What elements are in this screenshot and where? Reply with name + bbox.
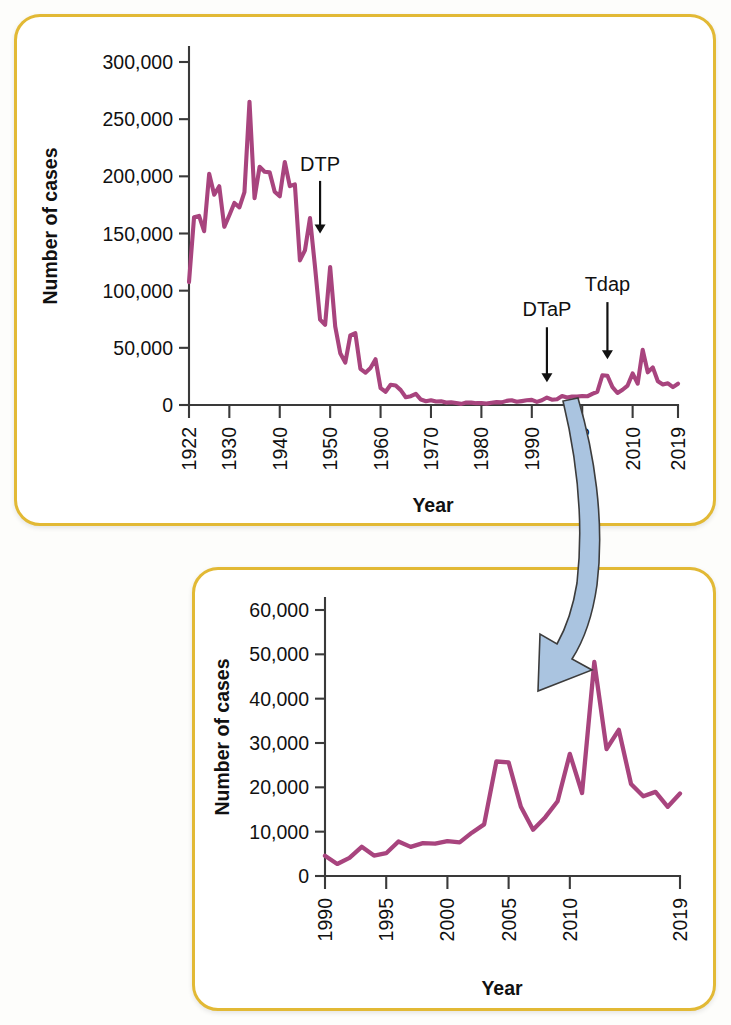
x-tick-label: 1930: [218, 427, 240, 471]
top-y-tick-labels: 050,000100,000150,000200,000250,000300,0…: [103, 51, 174, 416]
x-tick-label: 1995: [375, 898, 397, 942]
x-tick-label: 1990: [521, 427, 543, 471]
bottom-y-tick-group: [315, 610, 325, 876]
y-tick-label: 250,000: [103, 108, 174, 130]
pertussis-cases-line: [189, 102, 678, 404]
y-tick-label: 10,000: [249, 821, 309, 843]
annotation-arrow-head: [541, 373, 552, 382]
x-tick-label: 1940: [269, 427, 291, 471]
x-tick-label: 1990: [314, 898, 336, 942]
x-tick-label: 2005: [498, 898, 520, 942]
bottom-y-axis-title: Number of cases: [211, 658, 233, 815]
top-x-tick-group: [189, 405, 678, 418]
x-tick-label: 1960: [370, 427, 392, 471]
y-tick-label: 50,000: [249, 643, 309, 665]
y-tick-label: 50,000: [113, 337, 173, 359]
x-tick-label: 1970: [420, 427, 442, 471]
top-x-axis-title: Year: [412, 494, 454, 516]
y-tick-label: 20,000: [249, 776, 309, 798]
annotation-arrow-head: [315, 225, 326, 234]
y-tick-label: 0: [162, 394, 173, 416]
x-tick-label: 2000: [571, 427, 593, 471]
bottom-x-axis-title: Year: [481, 977, 523, 999]
y-tick-label: 200,000: [103, 165, 174, 187]
bottom-chart-panel: 010,00020,00030,00040,00050,00060,000 19…: [192, 567, 716, 1011]
top-y-axis-title: Number of cases: [39, 147, 61, 304]
bottom-x-tick-labels: 199019952000200520102019: [314, 898, 691, 942]
top-x-tick-labels: 1922193019401950196019701980199020002010…: [178, 427, 689, 471]
x-tick-label: 2019: [667, 427, 689, 470]
bottom-chart-svg: 010,00020,00030,00040,00050,00060,000 19…: [195, 570, 713, 1008]
y-tick-label: 150,000: [103, 223, 174, 245]
y-tick-label: 40,000: [249, 688, 309, 710]
x-tick-label: 1950: [319, 427, 341, 471]
x-tick-label: 2010: [559, 898, 581, 942]
top-y-tick-group: [179, 62, 189, 405]
x-tick-label: 2000: [436, 898, 458, 942]
annotation-arrow-head: [602, 350, 613, 359]
pertussis-cases-line-detail: [325, 662, 680, 864]
y-tick-label: 60,000: [249, 599, 309, 621]
annotation-label: Tdap: [585, 273, 631, 295]
top-chart-svg: 050,000100,000150,000200,000250,000300,0…: [17, 17, 713, 523]
bottom-x-tick-group: [325, 876, 680, 889]
x-tick-label: 2019: [669, 898, 691, 941]
x-tick-label: 1980: [470, 427, 492, 471]
y-tick-label: 0: [298, 865, 309, 887]
y-tick-label: 100,000: [103, 280, 174, 302]
bottom-y-tick-labels: 010,00020,00030,00040,00050,00060,000: [249, 599, 309, 887]
top-chart-panel: 050,000100,000150,000200,000250,000300,0…: [14, 14, 716, 526]
x-tick-label: 2010: [622, 427, 644, 471]
y-tick-label: 30,000: [249, 732, 309, 754]
annotation-label: DTaP: [522, 298, 571, 320]
y-tick-label: 300,000: [103, 51, 174, 73]
x-tick-label: 1922: [178, 427, 200, 470]
annotation-label: DTP: [300, 153, 340, 175]
